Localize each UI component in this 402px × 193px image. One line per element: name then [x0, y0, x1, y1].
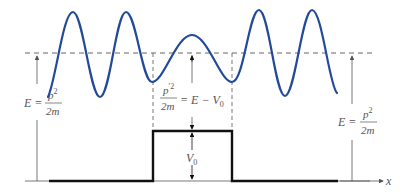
barrier-diagram: x E = p2 2m E = p2 2m p′2 2m = E − V0 V0 [0, 0, 402, 193]
left-energy-den: 2m [46, 105, 60, 117]
right-energy-lhs: E = [337, 115, 356, 129]
right-energy-den: 2m [361, 124, 375, 136]
x-axis-label: x [385, 174, 392, 188]
barrier-energy-den: 2m [161, 100, 175, 112]
left-energy-lhs: E = [23, 96, 42, 110]
barrier-height-label: V0 [186, 151, 197, 167]
barrier-energy-rhs: = E − V0 [180, 93, 224, 109]
potential-barrier [49, 131, 338, 181]
